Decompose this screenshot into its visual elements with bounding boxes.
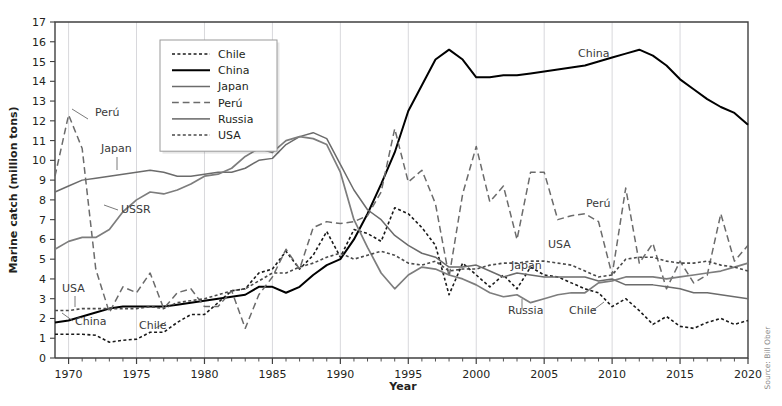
annotation-label-chile-5: Chile	[139, 319, 167, 332]
x-tick-label-1990: 1990	[326, 368, 354, 381]
annotation-label-per-7: Perú	[586, 197, 611, 210]
x-axis-title: Year	[388, 380, 417, 393]
legend-label-japan[interactable]: Japan	[217, 80, 249, 93]
y-tick-label-17: 17	[32, 16, 46, 29]
x-tick-label-2010: 2010	[598, 368, 626, 381]
y-tick-label-11: 11	[32, 135, 46, 148]
y-tick-label-3: 3	[39, 293, 46, 306]
y-tick-label-13: 13	[32, 95, 46, 108]
annotation-label-chile-11: Chile	[569, 304, 597, 317]
y-tick-label-16: 16	[32, 36, 46, 49]
y-tick-label-1: 1	[39, 332, 46, 345]
x-tick-label-1985: 1985	[258, 368, 286, 381]
y-tick-label-0: 0	[39, 352, 46, 365]
y-axis-title: Marine catch (million tons)	[7, 106, 20, 273]
x-tick-label-1975: 1975	[123, 368, 151, 381]
source-credit: Source: Bill Ober	[763, 326, 772, 390]
legend-label-china[interactable]: China	[218, 64, 249, 77]
annotation-label-china-6: China	[578, 47, 609, 60]
y-tick-label-4: 4	[39, 273, 46, 286]
x-tick-label-2000: 2000	[462, 368, 490, 381]
y-tick-label-7: 7	[39, 214, 46, 227]
y-tick-label-2: 2	[39, 312, 46, 325]
legend-label-chile[interactable]: Chile	[218, 48, 246, 61]
legend-label-russia[interactable]: Russia	[218, 113, 253, 126]
chart-background	[0, 0, 782, 406]
annotation-label-russia-10: Russia	[508, 304, 543, 317]
y-tick-label-6: 6	[39, 233, 46, 246]
y-tick-label-12: 12	[32, 115, 46, 128]
marine-catch-chart: 1970197519801985199019952000200520102015…	[0, 0, 782, 406]
annotation-label-usa-8: USA	[548, 238, 571, 251]
legend-label-usa[interactable]: USA	[218, 129, 241, 142]
annotation-label-ussr-2: USSR	[121, 203, 151, 216]
y-tick-label-5: 5	[39, 253, 46, 266]
legend-label-per[interactable]: Perú	[218, 97, 243, 110]
x-tick-label-1970: 1970	[55, 368, 83, 381]
annotation-label-usa-3: USA	[62, 282, 85, 295]
y-tick-label-15: 15	[32, 56, 46, 69]
annotation-label-japan-1: Japan	[100, 142, 132, 155]
annotation-label-per-0: Perú	[95, 106, 120, 119]
annotation-label-japan-9: Japan	[510, 259, 542, 272]
annotation-label-china-4: China	[75, 315, 106, 328]
chart-legend[interactable]: ChileChinaJapanPerúRussiaUSA	[160, 40, 280, 154]
chart-canvas: 1970197519801985199019952000200520102015…	[0, 0, 782, 406]
x-tick-label-2015: 2015	[666, 368, 694, 381]
y-tick-label-9: 9	[39, 174, 46, 187]
y-tick-label-10: 10	[32, 154, 46, 167]
y-tick-label-14: 14	[32, 75, 46, 88]
y-tick-label-8: 8	[39, 194, 46, 207]
x-tick-label-2020: 2020	[734, 368, 762, 381]
x-tick-label-1980: 1980	[190, 368, 218, 381]
x-tick-label-2005: 2005	[530, 368, 558, 381]
